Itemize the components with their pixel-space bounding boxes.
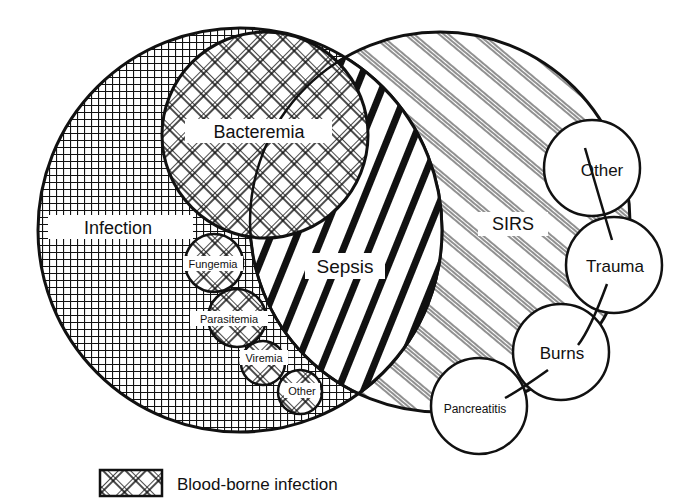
pancreatitis-label: Pancreatitis xyxy=(444,402,507,416)
fungemia-label: Fungemia xyxy=(189,258,239,270)
parasitemia-label: Parasitemia xyxy=(200,313,259,325)
sepsis-label: Sepsis xyxy=(316,256,373,277)
legend-swatch-crosshatch xyxy=(100,470,162,496)
other-cause-label: Other xyxy=(581,161,624,180)
legend: Blood-borne infection xyxy=(100,470,338,496)
trauma-label: Trauma xyxy=(586,257,644,276)
viremia-label: Viremia xyxy=(245,352,283,364)
legend-label: Blood-borne infection xyxy=(177,475,338,494)
infection-label: Infection xyxy=(84,218,152,238)
other-bloodborne-label: Other xyxy=(288,385,316,397)
sepsis-venn-diagram: Bacteremia Infection Sepsis SIRS Fungemi… xyxy=(0,0,691,504)
sirs-label: SIRS xyxy=(492,214,534,234)
bacteremia-label: Bacteremia xyxy=(213,122,305,142)
burns-label: Burns xyxy=(540,344,584,363)
